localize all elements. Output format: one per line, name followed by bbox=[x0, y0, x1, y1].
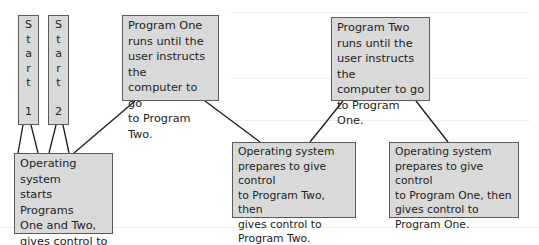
os-to-two-node: Operating system prepares to give contro… bbox=[232, 142, 356, 218]
program-two-node: Program Two runs until the user instruct… bbox=[331, 17, 430, 101]
start-2-node: S t a r t 2 bbox=[48, 15, 69, 125]
start-1-node: S t a r t 1 bbox=[18, 15, 39, 125]
edge-start2-os-start-left bbox=[49, 125, 56, 153]
program-one-node: Program One runs until the user instruct… bbox=[122, 15, 219, 101]
edge-program-one-os-to-two bbox=[205, 101, 260, 142]
edge-program-one-os-start bbox=[74, 101, 135, 153]
edge-start1-os-start-left bbox=[18, 125, 23, 153]
edge-start1-os-start-right bbox=[31, 125, 38, 153]
os-to-one-node: Operating system prepares to give contro… bbox=[389, 142, 519, 218]
edge-start2-os-start-right bbox=[63, 125, 69, 153]
edge-program-two-os-to-one bbox=[416, 101, 448, 142]
os-start-node: Operating system starts Programs One and… bbox=[14, 153, 113, 234]
